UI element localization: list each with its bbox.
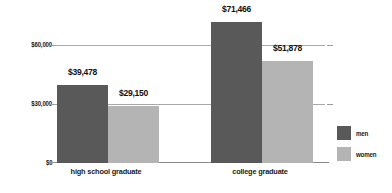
legend-label-men: men — [356, 130, 368, 137]
tick-right-60000 — [327, 45, 333, 46]
bar-high-school-men — [57, 85, 108, 163]
tick-right-30000 — [327, 104, 333, 105]
legend-swatch-women — [337, 147, 351, 161]
tick-left-60000 — [49, 45, 55, 46]
x-axis-label-college-graduate: college graduate — [210, 167, 309, 176]
x-axis-label-high-school-graduate: high school graduate — [56, 167, 155, 176]
bar-value-college-women: $51,878 — [256, 42, 320, 53]
bar-college-women — [262, 61, 313, 163]
bar-value-high-school-women: $29,150 — [102, 87, 166, 98]
bar-college-men — [211, 22, 262, 163]
legend-item-women: women — [337, 147, 379, 161]
bar-value-high-school-men: $39,478 — [51, 66, 115, 77]
bar-high-school-women — [108, 106, 159, 163]
bar-value-college-men: $71,466 — [205, 3, 269, 14]
tick-left-0 — [49, 162, 55, 163]
plot-area: $39,478 $29,150 $71,466 $51,878 — [55, 14, 325, 163]
legend-swatch-men — [337, 126, 351, 140]
legend-item-men: men — [337, 126, 379, 140]
bar-chart: $60,000 $30,000 $0 $39,478 $29,150 $71,4… — [0, 0, 392, 193]
legend: men women — [337, 126, 379, 168]
legend-label-women: women — [356, 151, 376, 158]
tick-left-30000 — [49, 104, 55, 105]
